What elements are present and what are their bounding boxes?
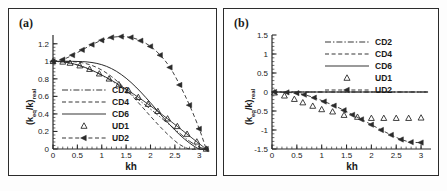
legend-sym-wrap xyxy=(61,96,107,108)
legend-item-cd6: CD6 xyxy=(61,108,129,120)
y-tick-label: 1.5 xyxy=(257,31,268,40)
y-tick-label: 1 xyxy=(45,57,49,66)
y-tick-label: 1 xyxy=(264,50,268,59)
y-tick-label: -1.5 xyxy=(254,145,268,154)
panel-b: (b) (keq/k)real kh CD2CD4CD6UD1UD2 00.51… xyxy=(223,8,439,176)
legend-item-cd2: CD2 xyxy=(61,84,129,96)
x-tick-label: 0.5 xyxy=(291,151,302,160)
legend-label: UD2 xyxy=(375,85,392,95)
legend-item-ud1: UD1 xyxy=(61,120,129,132)
x-tick-label: 3 xyxy=(197,151,201,160)
x-tick-label: 1.5 xyxy=(121,151,132,160)
x-tick-label: 3 xyxy=(419,151,423,160)
legend-label: UD1 xyxy=(375,73,392,83)
legend-symbol-cd2 xyxy=(324,36,370,48)
legend-sym-wrap xyxy=(324,84,370,96)
y-tick-label: 0 xyxy=(264,88,268,97)
x-tick-label: 1.5 xyxy=(341,151,352,160)
legend-symbol-cd4 xyxy=(61,96,107,108)
legend-symbol-cd2 xyxy=(61,84,107,96)
legend-label: CD2 xyxy=(112,85,129,95)
legend-sym-wrap xyxy=(61,132,107,144)
legend-sym-wrap xyxy=(324,60,370,72)
legend-symbol-cd6 xyxy=(324,60,370,72)
legend-symbol-cd6 xyxy=(61,108,107,120)
x-tick-label: 0 xyxy=(51,151,55,160)
legend-label: CD6 xyxy=(375,61,392,71)
x-tick-label: 1 xyxy=(100,151,104,160)
x-tick-label: 0 xyxy=(270,151,274,160)
legend-sym-wrap xyxy=(324,36,370,48)
legend-item-ud2: UD2 xyxy=(61,132,129,144)
legend-symbol-ud2 xyxy=(324,84,370,96)
x-tick-label: 0.5 xyxy=(72,151,83,160)
legend-symbol-ud1 xyxy=(324,72,370,84)
panel-b-legend: CD2CD4CD6UD1UD2 xyxy=(324,36,392,96)
y-tick-label: -1 xyxy=(261,126,268,135)
panel-a-legend: CD2CD4CD6UD1UD2 xyxy=(61,84,129,144)
legend-label: UD2 xyxy=(112,133,129,143)
x-tick-label: 2 xyxy=(148,151,152,160)
legend-sym-wrap xyxy=(324,48,370,60)
y-tick-label: 0.2 xyxy=(38,127,49,136)
legend-sym-wrap xyxy=(61,120,107,132)
legend-label: UD1 xyxy=(112,121,129,131)
legend-symbol-ud2 xyxy=(61,132,107,144)
y-tick-label: 1.2 xyxy=(38,39,49,48)
y-tick-label: 0.6 xyxy=(38,92,49,101)
legend-label: CD6 xyxy=(112,109,129,119)
legend-item-ud1: UD1 xyxy=(324,72,392,84)
y-tick-label: -0.5 xyxy=(254,107,268,116)
legend-symbol-cd4 xyxy=(324,48,370,60)
x-tick-label: 2 xyxy=(369,151,373,160)
legend-sym-wrap xyxy=(61,84,107,96)
legend-label: CD4 xyxy=(112,97,129,107)
panel-a: (a) (keq/k)real kh CD2CD4CD6UD1UD2 00.51… xyxy=(8,8,217,176)
legend-item-cd2: CD2 xyxy=(324,36,392,48)
legend-sym-wrap xyxy=(61,108,107,120)
x-tick-label: 1 xyxy=(319,151,323,160)
legend-item-cd6: CD6 xyxy=(324,60,392,72)
legend-symbol-ud1 xyxy=(61,120,107,132)
y-tick-label: 0 xyxy=(45,145,49,154)
y-tick-label: 0.5 xyxy=(257,69,268,78)
legend-sym-wrap xyxy=(324,72,370,84)
figure-container: (a) (keq/k)real kh CD2CD4CD6UD1UD2 00.51… xyxy=(0,0,447,191)
legend-label: CD4 xyxy=(375,49,392,59)
legend-item-cd4: CD4 xyxy=(61,96,129,108)
legend-label: CD2 xyxy=(375,37,392,47)
y-tick-label: 0.8 xyxy=(38,74,49,83)
legend-item-cd4: CD4 xyxy=(324,48,392,60)
y-tick-label: 0.4 xyxy=(38,109,49,118)
x-tick-label: 2.5 xyxy=(169,151,180,160)
x-tick-label: 2.5 xyxy=(391,151,402,160)
legend-item-ud2: UD2 xyxy=(324,84,392,96)
